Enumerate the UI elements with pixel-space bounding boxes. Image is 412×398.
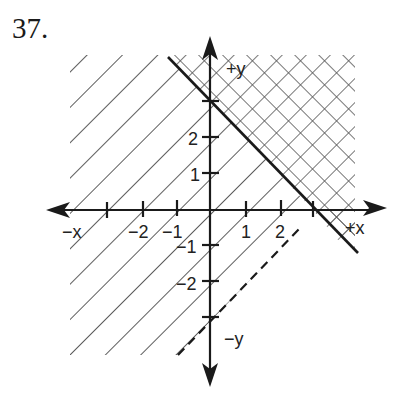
y-tick-label-neg2: −2 xyxy=(176,274,197,294)
x-tick-label-2: 2 xyxy=(275,222,285,242)
y-axis-pos-label: +y xyxy=(226,59,246,79)
inequality-graph: −x −2 −1 1 2 +x +y 2 1 −1 −2 −y xyxy=(0,0,412,398)
x-axis-right-arrow-icon xyxy=(363,200,387,216)
x-tick-label-1: 1 xyxy=(241,222,251,242)
x-axis-neg-label: −x xyxy=(62,222,82,242)
y-tick-label-1: 1 xyxy=(190,165,200,185)
x-tick-label-neg2: −2 xyxy=(128,222,149,242)
y-tick-label-2: 2 xyxy=(188,129,198,149)
x-axis-pos-label: +x xyxy=(345,218,365,238)
y-axis-neg-label: −y xyxy=(224,329,244,349)
y-tick-label-neg1: −1 xyxy=(176,237,197,257)
